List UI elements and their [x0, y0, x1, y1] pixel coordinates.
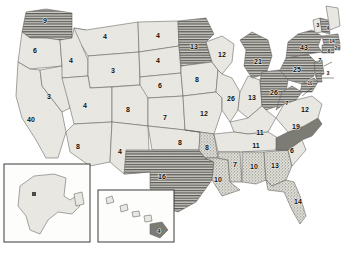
label-NH: 4 — [327, 25, 330, 31]
label-WA: 9 — [43, 17, 47, 24]
label-TX: 16 — [158, 173, 166, 180]
label-VT: 3 — [317, 22, 320, 28]
label-OR: 6 — [33, 47, 37, 54]
label-MI: 21 — [254, 58, 262, 65]
label-KS: 7 — [163, 114, 167, 121]
label-MO: 12 — [200, 110, 208, 117]
label-MT: 4 — [103, 33, 107, 40]
label-SD: 4 — [156, 57, 160, 64]
label-MN: 13 — [190, 43, 198, 50]
hawaii-inset[interactable] — [98, 190, 174, 242]
label-FL: 14 — [294, 198, 302, 205]
label-MD: 10 — [307, 81, 313, 86]
label-WY: 3 — [111, 67, 115, 74]
label-KY: 11 — [256, 129, 264, 136]
alaska-marker — [32, 192, 36, 196]
label-PA: 25 — [293, 66, 301, 73]
label-IL: 26 — [227, 95, 235, 102]
label-AL: 10 — [250, 163, 258, 170]
us-state-value-map: 9 6 40 3 4 4 3 4 8 8 4 4 4 6 7 8 16 13 8… — [0, 0, 342, 254]
label-VA: 12 — [301, 106, 309, 113]
label-SC: 6 — [290, 147, 294, 154]
label-MS: 7 — [233, 161, 237, 168]
label-IA: 8 — [195, 76, 199, 83]
label-NJ: 7 — [319, 57, 322, 63]
label-MA: 14 — [329, 38, 335, 44]
label-CT: 8 — [328, 48, 331, 54]
label-NM: 4 — [118, 148, 122, 155]
label-LA: 10 — [214, 176, 222, 183]
label-ID: 4 — [69, 57, 73, 64]
label-ND: 4 — [156, 32, 160, 39]
label-NY: 43 — [300, 44, 308, 51]
label-AZ: 8 — [76, 143, 80, 150]
label-OH: 26 — [270, 89, 278, 96]
label-NE: 6 — [158, 82, 162, 89]
label-OK: 8 — [178, 139, 182, 146]
label-AR: 8 — [205, 144, 209, 151]
map-svg: 9 6 40 3 4 4 3 4 8 8 4 4 4 6 7 8 16 13 8… — [0, 0, 342, 254]
label-GA: 13 — [271, 162, 279, 169]
label-IN: 13 — [248, 94, 256, 101]
label-WI: 12 — [218, 51, 226, 58]
label-CO: 8 — [126, 106, 130, 113]
label-NC: 19 — [292, 123, 300, 130]
alaska-inset[interactable] — [4, 164, 90, 242]
label-UT: 4 — [83, 102, 87, 109]
label-TN: 11 — [252, 142, 260, 149]
label-NV: 3 — [47, 93, 51, 100]
label-CA: 40 — [27, 116, 35, 123]
